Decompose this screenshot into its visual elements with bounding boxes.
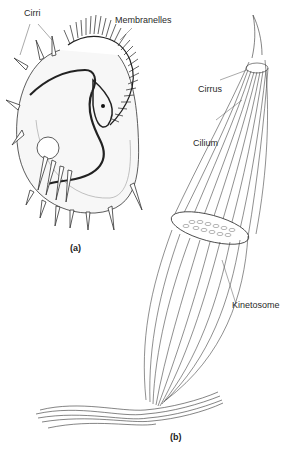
label-membranelles: Membranelles [115, 15, 172, 25]
label-kinetosome: Kinetosome [232, 300, 280, 310]
ciliate-body [6, 15, 142, 230]
label-cilium: Cilium [193, 138, 218, 148]
label-cirrus: Cirrus [198, 84, 222, 94]
caption-panel-a: (a) [70, 243, 81, 253]
caption-panel-b: (b) [170, 432, 182, 442]
label-cirri: Cirri [24, 8, 41, 18]
figure-illustration [0, 0, 298, 451]
